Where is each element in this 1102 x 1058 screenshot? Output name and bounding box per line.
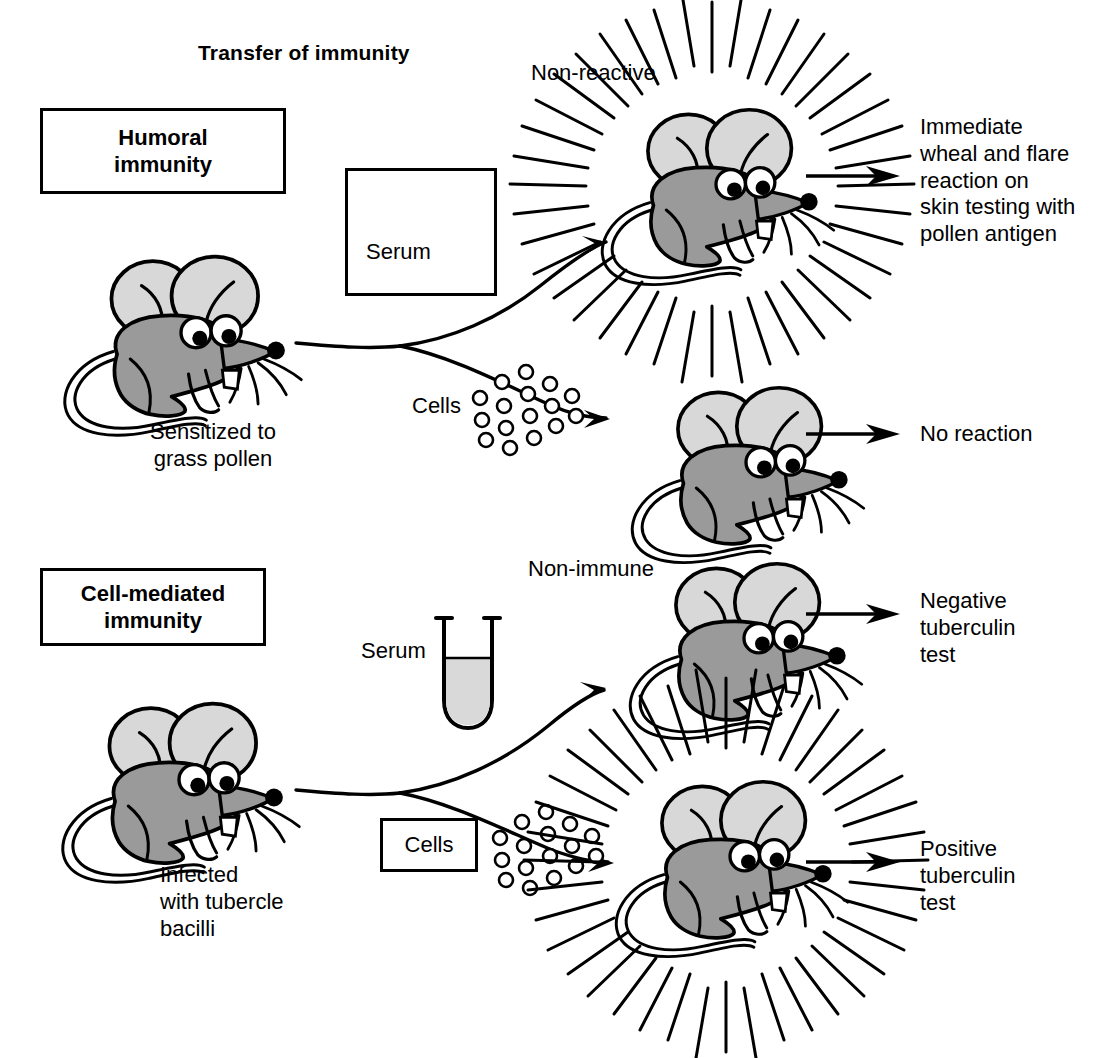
humoral-serum-box: Serum xyxy=(345,168,497,296)
humoral-immunity-label: Humoral immunity xyxy=(114,124,212,179)
cell-mediated-cells-box: Cells xyxy=(380,818,478,872)
mouse-sensitized xyxy=(65,257,302,436)
serum-tube-cellmediated xyxy=(436,618,500,728)
mouse-no-reaction xyxy=(632,388,864,563)
humoral-outcome-top: Immediate wheal and flare reaction on sk… xyxy=(920,114,1075,248)
immunity-transfer-figure: Transfer of immunity Humoral immunity Se… xyxy=(0,0,1102,1058)
mouse-non-reactive xyxy=(602,110,834,285)
humoral-recipient-top-state: Non-reactive xyxy=(531,60,656,87)
arrow-humoral-top xyxy=(806,166,900,186)
cellmediated-serum-label: Serum xyxy=(361,638,426,665)
cellmediated-source-caption: Infected with tubercle bacilli xyxy=(160,862,284,942)
figure-title: Transfer of immunity xyxy=(198,40,410,66)
cell-mediated-immunity-box: Cell-mediated immunity xyxy=(40,568,266,646)
cellmediated-recipient-top-state: Non-immune xyxy=(528,556,654,583)
cellmediated-outcome-bottom: Positive tuberculin test xyxy=(920,836,1015,916)
humoral-cells-label: Cells xyxy=(412,393,461,420)
humoral-serum-label: Serum xyxy=(366,239,431,265)
humoral-outcome-bottom: No reaction xyxy=(920,421,1033,448)
mouse-infected xyxy=(63,704,300,883)
humoral-immunity-box: Humoral immunity xyxy=(40,108,286,194)
mouse-non-immune xyxy=(630,564,862,739)
humoral-source-caption: Sensitized to grass pollen xyxy=(150,419,276,473)
cell-mediated-immunity-label: Cell-mediated immunity xyxy=(81,580,225,635)
cellmediated-cells-label: Cells xyxy=(405,832,454,858)
cellmediated-outcome-top: Negative tuberculin test xyxy=(920,588,1015,668)
mouse-positive-reaction xyxy=(616,782,848,957)
